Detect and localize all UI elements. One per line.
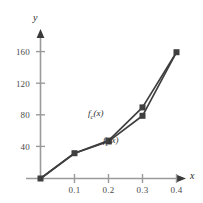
data-point-marker — [72, 150, 78, 156]
tick-marks — [36, 52, 177, 183]
curve-label-fe: fe(x) — [103, 135, 118, 147]
x-tick-label-0.2: 0.2 — [97, 185, 121, 195]
series-fe-line — [41, 52, 177, 178]
curve-label-fc: fc(x) — [88, 108, 103, 120]
data-point-marker — [38, 176, 44, 182]
x-axis-arrow-icon — [176, 174, 186, 182]
data-point-marker — [140, 104, 146, 110]
data-point-marker — [140, 113, 146, 119]
axes — [26, 29, 186, 183]
x-tick-label-0.4: 0.4 — [165, 185, 189, 195]
data-series — [38, 49, 180, 181]
x-tick-label-0.3: 0.3 — [131, 185, 155, 195]
x-tick-label-0.1: 0.1 — [63, 185, 87, 195]
y-axis-label: y — [33, 12, 37, 23]
curve-label-fc-tail: (x) — [93, 108, 103, 118]
series-fc-line — [41, 52, 177, 178]
y-tick-label-120: 120 — [4, 79, 30, 89]
y-axis-arrow-icon — [37, 29, 45, 38]
series-fc-markers — [38, 49, 180, 181]
x-axis-label: x — [190, 170, 194, 181]
y-tick-label-160: 160 — [4, 47, 30, 57]
y-tick-label-80: 80 — [4, 110, 30, 120]
chart-figure: 160 120 80 40 0.1 0.2 0.3 0.4 y x fc(x) … — [0, 0, 203, 203]
data-point-marker — [174, 49, 180, 55]
curve-label-fe-tail: (x) — [108, 135, 118, 145]
line-chart-plot — [0, 0, 203, 203]
y-tick-label-40: 40 — [4, 142, 30, 152]
